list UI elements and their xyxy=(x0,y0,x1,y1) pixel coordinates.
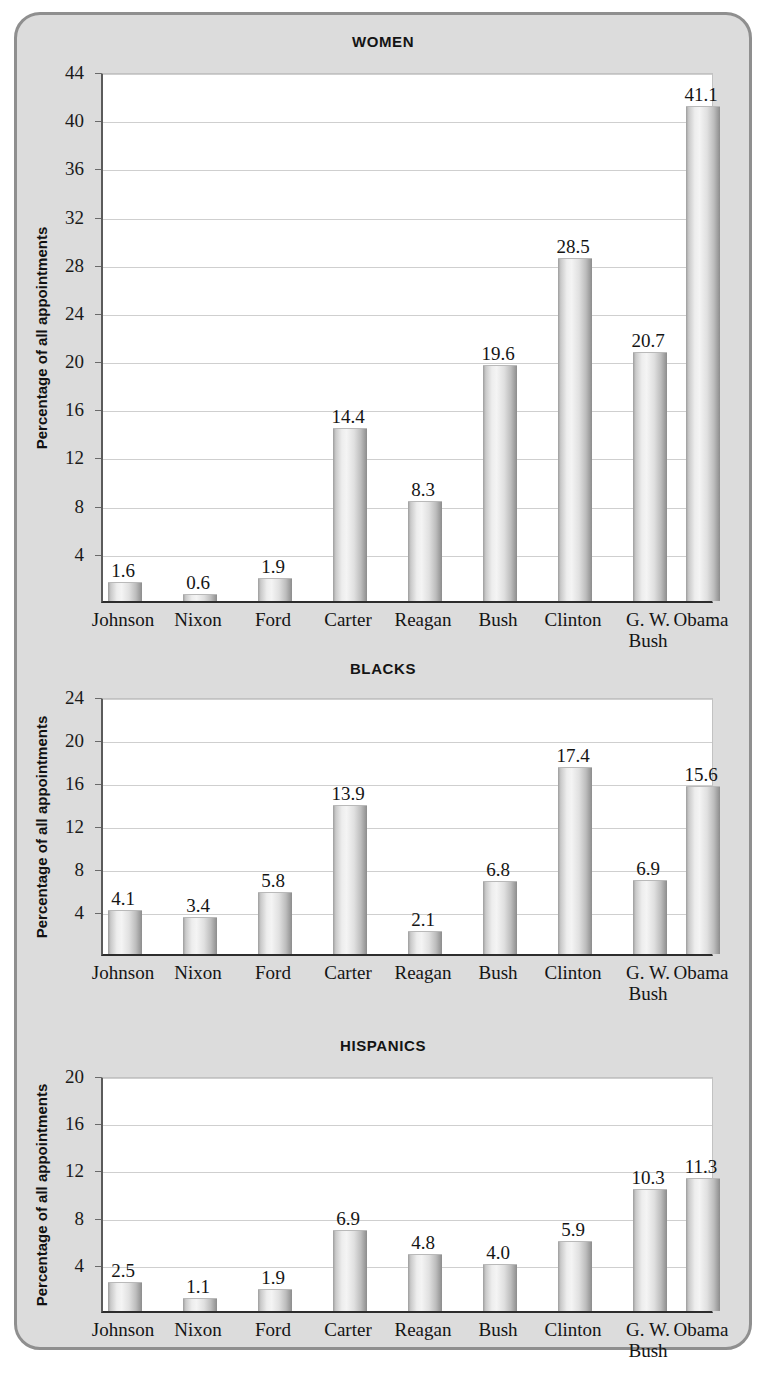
y-axis-tick xyxy=(95,555,101,556)
y-axis-tick-label: 4 xyxy=(75,544,85,566)
x-axis-tick-label: Nixon xyxy=(174,609,222,630)
x-axis-tick-label: Clinton xyxy=(544,1319,601,1340)
x-axis-tick-label: Clinton xyxy=(544,609,601,630)
y-axis-tick xyxy=(95,507,101,508)
chart-title: HISPANICS xyxy=(17,1037,749,1054)
x-axis-tick-label: Carter xyxy=(324,609,371,630)
y-axis-tick xyxy=(95,410,101,411)
y-axis-tick-label: 20 xyxy=(65,730,84,752)
y-axis-tick xyxy=(95,73,101,74)
bar-value-label: 1.1 xyxy=(186,1276,210,1298)
bar-value-label: 3.4 xyxy=(186,895,210,917)
y-axis-tick xyxy=(95,1077,101,1078)
plot-area xyxy=(101,73,713,603)
bar-value-label: 28.5 xyxy=(556,236,589,258)
bar-value-label: 2.1 xyxy=(411,909,435,931)
y-axis-tick xyxy=(95,1124,101,1125)
y-axis-tick xyxy=(95,1171,101,1172)
bar-value-label: 5.8 xyxy=(261,870,285,892)
x-axis-tick-label: Bush xyxy=(478,1319,517,1340)
x-axis-tick-label: Johnson xyxy=(92,609,154,630)
y-axis-label: Percentage of all appointments xyxy=(33,73,50,603)
bar xyxy=(633,352,667,601)
x-axis-tick-label: Obama xyxy=(674,609,729,630)
gridline xyxy=(103,74,712,75)
y-axis-tick-label: 44 xyxy=(65,62,84,84)
bar xyxy=(558,767,592,954)
bar xyxy=(108,582,142,601)
gridline xyxy=(103,699,712,700)
bar-value-label: 1.6 xyxy=(111,560,135,582)
x-axis-tick-label: Johnson xyxy=(92,962,154,983)
bar xyxy=(183,594,217,601)
y-axis-tick-label: 4 xyxy=(75,1255,85,1277)
bar xyxy=(108,1282,142,1312)
x-axis-tick-label: Reagan xyxy=(395,1319,452,1340)
gridline xyxy=(103,785,712,786)
bar xyxy=(558,258,592,601)
y-axis-tick-label: 4 xyxy=(75,902,85,924)
y-axis-tick xyxy=(95,314,101,315)
bar xyxy=(333,805,367,954)
bar-value-label: 14.4 xyxy=(331,406,364,428)
bar-value-label: 0.6 xyxy=(186,572,210,594)
bar xyxy=(333,1230,367,1311)
gridline xyxy=(103,1125,712,1126)
x-axis-tick-label: Johnson xyxy=(92,1319,154,1340)
x-axis-tick-label: Bush xyxy=(478,962,517,983)
x-axis-tick-label: Bush xyxy=(478,609,517,630)
bar-value-label: 41.1 xyxy=(684,84,717,106)
gridline xyxy=(103,267,712,268)
y-axis-tick-label: 12 xyxy=(65,1160,84,1182)
y-axis-tick xyxy=(95,169,101,170)
bar xyxy=(408,501,442,601)
bar-value-label: 6.9 xyxy=(336,1208,360,1230)
x-axis-tick-label: Reagan xyxy=(395,609,452,630)
bar xyxy=(258,1289,292,1311)
bar-value-label: 13.9 xyxy=(331,783,364,805)
y-axis-tick xyxy=(95,458,101,459)
y-axis-tick xyxy=(95,121,101,122)
y-axis-tick xyxy=(95,698,101,699)
x-axis-tick-label: G. W.Bush xyxy=(626,962,670,1004)
y-axis-tick-label: 20 xyxy=(65,351,84,373)
bar-value-label: 11.3 xyxy=(685,1156,718,1178)
y-axis-tick xyxy=(95,266,101,267)
y-axis-tick-label: 36 xyxy=(65,158,84,180)
bar-value-label: 15.6 xyxy=(684,764,717,786)
bar xyxy=(483,365,517,601)
x-axis-tick-label: Ford xyxy=(255,1319,291,1340)
y-axis-tick-label: 24 xyxy=(65,303,84,325)
gridline xyxy=(103,742,712,743)
y-axis-tick xyxy=(95,784,101,785)
y-axis-tick-label: 28 xyxy=(65,255,84,277)
bar-value-label: 19.6 xyxy=(481,343,514,365)
bar xyxy=(633,880,667,954)
y-axis-tick-label: 16 xyxy=(65,773,84,795)
gridline xyxy=(103,170,712,171)
x-axis-tick-label: Ford xyxy=(255,962,291,983)
bar-value-label: 20.7 xyxy=(631,330,664,352)
bar xyxy=(558,1241,592,1311)
y-axis-tick-label: 16 xyxy=(65,399,84,421)
gridline xyxy=(103,828,712,829)
y-axis-tick-label: 40 xyxy=(65,110,84,132)
gridline xyxy=(103,459,712,460)
x-axis-tick-label: Carter xyxy=(324,962,371,983)
x-axis-tick-label: Obama xyxy=(674,1319,729,1340)
bar-value-label: 4.1 xyxy=(111,888,135,910)
y-axis-tick xyxy=(95,913,101,914)
y-axis-tick-label: 12 xyxy=(65,816,84,838)
gridline xyxy=(103,1172,712,1173)
bar-value-label: 8.3 xyxy=(411,479,435,501)
bar xyxy=(633,1189,667,1311)
x-axis-tick-label: Reagan xyxy=(395,962,452,983)
y-axis-tick xyxy=(95,827,101,828)
y-axis-tick-label: 32 xyxy=(65,207,84,229)
x-axis-tick-label: Clinton xyxy=(544,962,601,983)
x-axis-tick-label: G. W.Bush xyxy=(626,1319,670,1361)
bar-value-label: 6.9 xyxy=(636,858,660,880)
bar xyxy=(108,910,142,954)
gridline xyxy=(103,363,712,364)
bar xyxy=(183,917,217,954)
